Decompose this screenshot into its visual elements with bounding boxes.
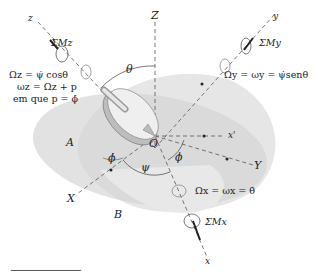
axis-label-z: z <box>28 14 33 23</box>
point-label-A: A <box>66 137 74 148</box>
moment-label-Mz: ΣMz <box>51 38 72 49</box>
axis-label-Y: Y <box>254 160 261 171</box>
point-label-B: B <box>114 209 122 220</box>
moment-label-My: ΣMy <box>259 38 281 49</box>
axis-label-x: x <box>205 257 210 266</box>
moment-My-icon <box>241 38 253 54</box>
moment-label-Mx: ΣMx <box>205 217 227 228</box>
angle-phi: ϕ <box>175 152 183 163</box>
axis-label-y: y <box>273 12 278 21</box>
angle-phi-dot: ϕ̇ <box>108 153 116 164</box>
axis-label-x-prime: x' <box>228 131 236 140</box>
axis-label-Z: Z <box>151 10 159 21</box>
moment-Mx-icon <box>184 214 200 240</box>
angle-psi: ψ <box>141 162 150 173</box>
equation-omega-y: Ωy = ωy = ψ̇senθ <box>224 70 308 81</box>
equation-omega-z-big: Ωz = ψ̇ cosθ <box>9 70 68 81</box>
angle-theta: θ <box>126 64 133 75</box>
omega-z-loop-icon <box>81 65 91 79</box>
equation-omega-x: Ωx = ωx = θ̇ <box>195 186 255 197</box>
equation-p-definition: em que p = ϕ̇ <box>13 94 78 105</box>
origin-label-O: O <box>149 138 158 149</box>
equation-omega-z-small: ωz = Ωz + p <box>17 82 77 93</box>
axis-label-X: X <box>67 193 75 204</box>
